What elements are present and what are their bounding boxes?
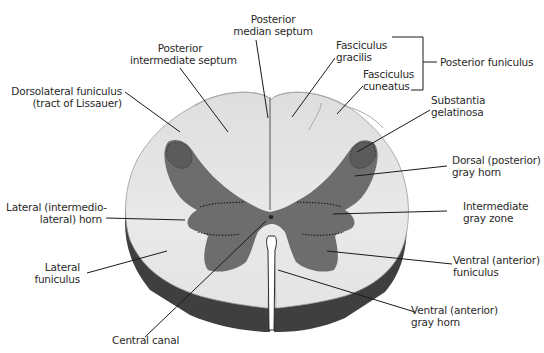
label-substantia-gelatinosa: Substantia gelatinosa [431, 94, 485, 118]
label-lateral-funiculus: Lateral funiculus [20, 261, 80, 285]
label-posterior-intermediate-septum: Posterior intermediate septum [130, 42, 230, 66]
label-dorsolateral-funiculus: Dorsolateral funiculus (tract of Lissaue… [10, 85, 122, 109]
label-posterior-funiculus: Posterior funiculus [440, 56, 533, 68]
label-ventral-gray-horn: Ventral (anterior) gray horn [411, 304, 498, 328]
label-lateral-horn: Lateral (intermedio- lateral) horn [6, 201, 102, 225]
label-ventral-funiculus: Ventral (anterior) funiculus [453, 254, 540, 278]
label-posterior-median-septum: Posterior median septum [229, 13, 317, 37]
label-intermediate-gray-zone: Intermediate gray zone [463, 200, 528, 224]
white-matter [126, 92, 409, 308]
label-central-canal: Central canal [112, 334, 179, 346]
label-fasciculus-cuneatus: Fasciculus cuneatus [363, 68, 414, 92]
central-canal-dot [269, 215, 274, 219]
label-dorsal-gray-horn: Dorsal (posterior) gray horn [452, 154, 541, 178]
label-fasciculus-gracilis: Fasciculus gracilis [336, 39, 387, 63]
